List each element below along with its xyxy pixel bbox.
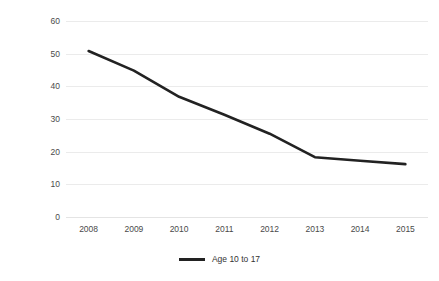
y-tick-40: 40 (26, 81, 60, 91)
legend-label-age-10-to-17: Age 10 to 17 (212, 254, 260, 264)
y-tick-20: 20 (26, 147, 60, 157)
x-axis-tick-labels: 2008 2009 2010 2011 2012 2013 2014 2015 (66, 224, 428, 240)
x-tick-2008: 2008 (66, 224, 112, 234)
x-tick-2015: 2015 (382, 224, 428, 234)
x-tick-2014: 2014 (337, 224, 383, 234)
x-tick-2011: 2011 (201, 224, 247, 234)
x-tick-2009: 2009 (111, 224, 157, 234)
legend-line-swatch (179, 258, 205, 261)
y-tick-0: 0 (26, 212, 60, 222)
y-tick-60: 60 (26, 16, 60, 26)
x-tick-2010: 2010 (156, 224, 202, 234)
x-tick-2013: 2013 (292, 224, 338, 234)
y-axis-tick-labels: 60 50 40 30 20 10 0 (0, 21, 439, 217)
x-tick-2012: 2012 (247, 224, 293, 234)
y-tick-50: 50 (26, 49, 60, 59)
y-tick-30: 30 (26, 114, 60, 124)
y-tick-10: 10 (26, 179, 60, 189)
gridline-0-baseline (66, 217, 428, 218)
chart-legend: Age 10 to 17 (0, 254, 439, 264)
line-chart: Rate per 1000 population 60 50 40 30 20 … (0, 0, 439, 281)
